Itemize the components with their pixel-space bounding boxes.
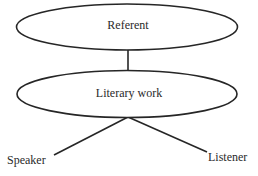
literary-work-label: Literary work	[96, 86, 162, 100]
speaker-label: Speaker	[7, 153, 46, 167]
clipped-caption	[52, 171, 172, 176]
referent-label: Referent	[107, 18, 148, 32]
listener-label: Listener	[208, 150, 247, 164]
edge-literary-work-listener	[128, 117, 207, 152]
edge-literary-work-speaker	[54, 117, 128, 155]
